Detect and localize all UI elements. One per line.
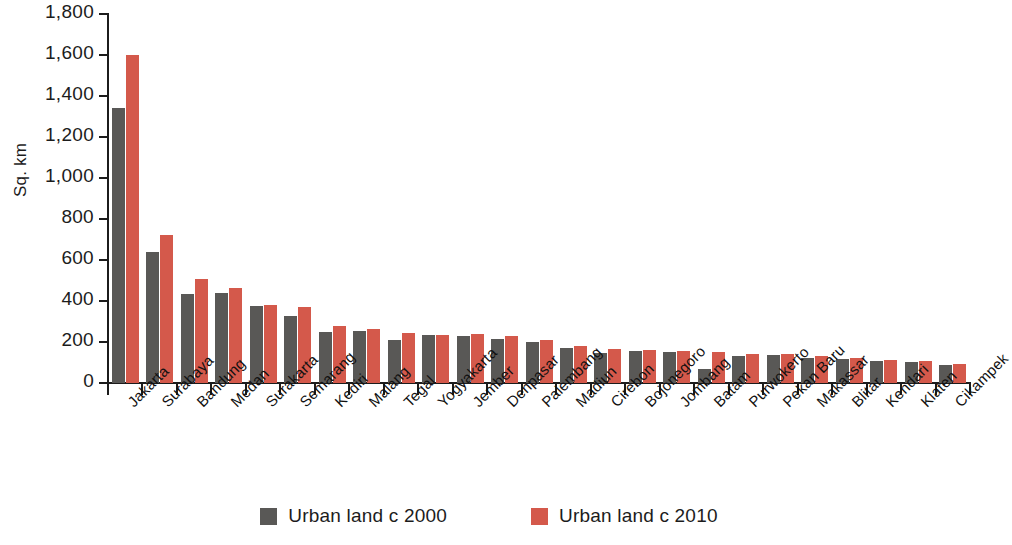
bar-urban-land-2010: [160, 235, 173, 383]
legend-label: Urban land c 2000: [288, 505, 447, 527]
y-axis-tick: [99, 341, 108, 343]
bar-urban-land-2010: [126, 55, 139, 383]
y-axis-tick-label: 1,600: [45, 42, 94, 64]
plot-area: [108, 14, 970, 383]
y-axis-tick: [99, 259, 108, 261]
legend-item: Urban land c 2000: [260, 505, 447, 527]
y-axis-tick: [99, 177, 108, 179]
y-axis-tick-label: 1,200: [45, 124, 94, 146]
y-axis-tick: [99, 95, 108, 97]
legend-swatch-icon: [260, 508, 277, 525]
y-axis-tick-label: 600: [61, 247, 94, 269]
legend-label: Urban land c 2010: [559, 505, 718, 527]
y-axis-tick: [99, 300, 108, 302]
y-axis-tick-label: 1,400: [45, 83, 94, 105]
bar-urban-land-2000: [112, 108, 125, 383]
bar-urban-land-2010: [367, 329, 380, 383]
y-axis-tick-label: 400: [61, 288, 94, 310]
y-axis-tick-label: 1,000: [45, 165, 94, 187]
y-axis-title: Sq. km: [11, 125, 31, 215]
y-axis-tick-label: 1,800: [45, 1, 94, 23]
legend-swatch-icon: [531, 508, 548, 525]
y-axis-tick: [99, 54, 108, 56]
bar-urban-land-2010: [436, 335, 449, 383]
x-axis-tick: [107, 384, 109, 395]
y-axis-tick: [99, 136, 108, 138]
bar-urban-land-2010: [884, 360, 897, 383]
chart-legend: Urban land c 2000Urban land c 2010: [0, 505, 978, 527]
y-axis-tick: [99, 13, 108, 15]
y-axis-tick-label: 0: [83, 370, 94, 392]
legend-item: Urban land c 2010: [531, 505, 718, 527]
y-axis-tick-label: 200: [61, 329, 94, 351]
y-axis-tick-label: 800: [61, 206, 94, 228]
y-axis-tick: [99, 218, 108, 220]
